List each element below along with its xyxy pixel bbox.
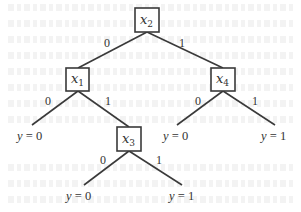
edge-label-x1-x3: 1 [105, 94, 111, 108]
node-x3: x3 [117, 127, 141, 151]
edge-x3-leaf0 [84, 151, 129, 185]
leaf-x3-0: y = 0 [64, 189, 91, 203]
edge-label-x4-leaf1: 1 [252, 94, 258, 108]
node-x1: x1 [66, 68, 89, 91]
leaf-x1-0: y = 0 [15, 129, 42, 143]
edge-label-x2-x4: 1 [179, 36, 185, 50]
edge-x1-x3 [78, 91, 129, 127]
edges [32, 32, 275, 185]
edge-x4-leaf1 [223, 91, 275, 125]
leaf-x3-1: y = 1 [167, 189, 194, 203]
edge-labels: 0 1 0 1 0 1 0 1 [45, 36, 258, 167]
edge-x1-leaf [32, 91, 78, 125]
edge-label-x2-x1: 0 [104, 36, 110, 50]
decision-tree: 0 1 0 1 0 1 0 1 x2 x1 x4 x3 y = 0 y = 0 … [0, 0, 301, 212]
node-x4: x4 [211, 68, 235, 91]
edge-label-x4-leaf0: 0 [195, 94, 201, 108]
edge-label-x3-leaf0: 0 [100, 153, 106, 167]
node-x2: x2 [135, 8, 159, 32]
edge-x2-x4 [147, 32, 223, 68]
leaf-x4-1: y = 1 [259, 129, 286, 143]
edge-label-x1-leaf: 0 [45, 94, 51, 108]
edge-label-x3-leaf1: 1 [156, 153, 162, 167]
leaf-x4-0: y = 0 [161, 129, 188, 143]
edge-x2-x1 [78, 32, 147, 68]
